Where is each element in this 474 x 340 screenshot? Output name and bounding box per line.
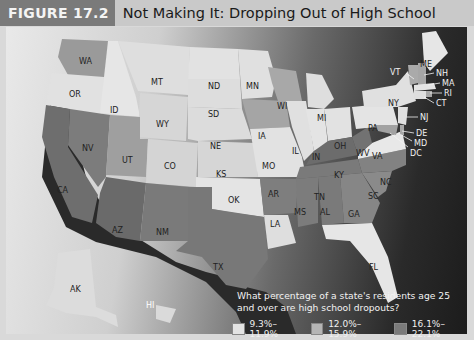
svg-text:ME: ME [420,60,432,69]
svg-text:OR: OR [69,90,81,99]
svg-text:KS: KS [216,170,226,179]
figure-frame: FIGURE 17.2 Not Making It: Dropping Out … [0,0,474,340]
state-CT[interactable] [414,91,426,99]
svg-text:DC: DC [410,149,422,158]
svg-text:CA: CA [57,186,69,195]
svg-text:UT: UT [122,156,133,165]
state-MS[interactable] [296,177,318,227]
svg-text:LA: LA [270,220,281,229]
state-HI[interactable] [156,305,176,323]
figure-number: FIGURE 17.2 [0,0,115,26]
legend-label-low: 9.3%–11.9% [250,319,299,339]
svg-text:MN: MN [246,82,259,91]
svg-text:KY: KY [334,171,344,180]
svg-text:NV: NV [82,144,94,153]
svg-text:NM: NM [156,228,169,237]
legend-label-high: 16.1%–22.1% [412,319,466,339]
svg-text:SC: SC [368,192,379,201]
legend-label-mid: 12.0%–15.9% [328,319,382,339]
svg-text:MD: MD [414,139,427,148]
svg-text:AR: AR [268,190,279,199]
state-NE[interactable] [188,107,252,141]
svg-text:FL: FL [369,263,379,272]
svg-text:TN: TN [313,193,325,202]
state-RI[interactable] [426,91,432,97]
state-OH[interactable] [324,107,352,141]
map-question: What percentage of a state's residents a… [237,290,467,314]
svg-text:CT: CT [436,99,447,108]
figure-title: Not Making It: Dropping Out of High Scho… [115,5,436,21]
legend-swatch-high [394,323,407,335]
svg-text:IL: IL [292,147,299,156]
svg-text:MT: MT [151,78,163,87]
legend-item-mid: 12.0%–15.9% [311,319,383,339]
svg-text:GA: GA [348,210,360,219]
svg-text:ND: ND [208,82,220,91]
svg-text:VT: VT [390,68,400,77]
svg-text:ID: ID [110,106,119,115]
svg-text:CO: CO [164,162,176,171]
svg-text:MS: MS [294,208,306,217]
state-KS[interactable] [198,141,258,177]
svg-text:TX: TX [212,263,224,272]
svg-text:MI: MI [317,114,326,123]
svg-text:AL: AL [320,208,330,217]
svg-text:DE: DE [416,129,427,138]
svg-text:IA: IA [258,132,266,141]
svg-text:PA: PA [368,124,378,133]
state-WI[interactable] [268,67,302,101]
figure-titlebar: FIGURE 17.2 Not Making It: Dropping Out … [0,0,474,26]
legend-item-high: 16.1%–22.1% [394,319,466,339]
state-ND[interactable] [188,47,240,79]
svg-text:AZ: AZ [112,226,123,235]
svg-text:NE: NE [210,142,221,151]
state-AK[interactable] [46,249,118,327]
svg-text:AK: AK [70,285,81,294]
svg-text:NC: NC [380,178,392,187]
state-NJ[interactable] [398,107,408,125]
svg-text:NJ: NJ [420,113,428,122]
us-map: WA OR CA NV ID MT WY UT CO AZ NM ND SD N… [6,27,467,334]
state-DE[interactable] [400,125,404,135]
legend-swatch-mid [311,323,324,335]
svg-text:NY: NY [388,99,399,108]
legend-item-low: 9.3%–11.9% [232,319,299,339]
svg-text:VA: VA [372,152,383,161]
legend: 9.3%–11.9% 12.0%–15.9% 16.1%–22.1% [232,319,474,339]
svg-text:WV: WV [356,149,370,158]
us-map-svg: WA OR CA NV ID MT WY UT CO AZ NM ND SD N… [6,27,467,334]
svg-text:WA: WA [79,57,92,66]
svg-text:NH: NH [436,69,448,78]
svg-text:SD: SD [208,110,219,119]
svg-text:IN: IN [312,153,320,162]
state-MI[interactable] [306,73,334,109]
svg-text:WY: WY [156,120,169,129]
svg-text:MO: MO [262,162,275,171]
svg-text:MA: MA [442,79,455,88]
legend-swatch-low [232,323,245,335]
svg-text:HI: HI [146,301,154,310]
svg-text:OH: OH [334,142,346,151]
svg-text:WI: WI [277,102,287,111]
svg-text:OK: OK [228,196,240,205]
state-WY[interactable] [138,93,188,141]
svg-text:RI: RI [444,89,452,98]
